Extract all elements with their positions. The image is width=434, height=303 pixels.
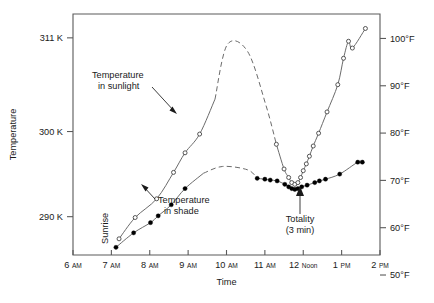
x-axis-title: Time bbox=[216, 277, 236, 287]
data-point bbox=[305, 183, 309, 187]
data-point bbox=[255, 176, 259, 180]
shade-label-line1: Temperature bbox=[158, 195, 210, 205]
data-point bbox=[275, 179, 279, 183]
data-point bbox=[307, 154, 311, 158]
data-point bbox=[311, 144, 315, 148]
x-tick-label: 8 AM bbox=[141, 260, 159, 270]
x-tick-label: 10 AM bbox=[215, 260, 238, 270]
data-point bbox=[323, 177, 327, 181]
data-point bbox=[317, 179, 321, 183]
series-shade bbox=[114, 160, 365, 249]
y-right-tick-label: 60°F bbox=[390, 223, 410, 233]
data-point bbox=[317, 131, 321, 135]
x-tick-label: 1 PM bbox=[333, 260, 351, 270]
x-tick-label: 12 Noon bbox=[289, 260, 318, 270]
data-point bbox=[132, 231, 136, 235]
sunlight-label-line1: Temperature bbox=[92, 70, 144, 80]
data-point bbox=[133, 216, 137, 220]
data-point bbox=[183, 186, 187, 190]
y-axis-title: Temperature bbox=[8, 109, 18, 161]
data-point bbox=[148, 221, 152, 225]
data-point bbox=[283, 182, 287, 186]
data-point bbox=[299, 176, 303, 180]
x-tick-label: 11 AM bbox=[254, 260, 276, 270]
temperature-eclipse-chart: 6 AM7 AM8 AM9 AM10 AM11 AM12 Noon1 PM2 P… bbox=[0, 0, 434, 303]
data-point bbox=[172, 170, 176, 174]
sunrise-label: Sunrise bbox=[100, 213, 110, 244]
x-tick-label: 7 AM bbox=[103, 260, 121, 270]
y-left-tick-label: 311 K bbox=[40, 33, 64, 43]
data-point bbox=[313, 181, 317, 185]
y-right-tick-label: 100°F bbox=[390, 34, 415, 44]
axes-group bbox=[73, 14, 380, 255]
y-axis-right bbox=[380, 38, 386, 275]
data-point bbox=[296, 181, 300, 185]
series-line-segment bbox=[203, 166, 257, 178]
data-point bbox=[338, 172, 342, 176]
x-axis: 6 AM7 AM8 AM9 AM10 AM11 AM12 Noon1 PM2 P… bbox=[64, 250, 389, 270]
series-line-segment bbox=[257, 161, 362, 189]
data-point bbox=[325, 110, 329, 114]
data-point bbox=[198, 132, 202, 136]
y-left-tick-label: 300 K bbox=[39, 127, 64, 137]
data-point bbox=[301, 169, 305, 173]
y-axis-left bbox=[67, 38, 73, 217]
y-right-tick-label: 70°F bbox=[390, 176, 410, 186]
data-point bbox=[274, 142, 278, 146]
data-point bbox=[347, 39, 351, 43]
shade-label-line2: in shade bbox=[164, 206, 199, 216]
data-point bbox=[336, 83, 340, 87]
chart-canvas: 6 AM7 AM8 AM9 AM10 AM11 AM12 Noon1 PM2 P… bbox=[0, 0, 434, 303]
series-line-segment bbox=[215, 41, 276, 145]
totality-label-line2: (3 min) bbox=[286, 225, 315, 235]
data-point bbox=[117, 237, 121, 241]
data-point bbox=[183, 151, 187, 155]
y-left-tick-label: 290 K bbox=[39, 212, 64, 222]
y-right-tick-label: 80°F bbox=[390, 128, 410, 138]
data-point bbox=[304, 162, 308, 166]
plot-frame bbox=[73, 14, 380, 255]
data-point bbox=[156, 214, 160, 218]
data-point bbox=[282, 167, 286, 171]
data-point bbox=[342, 56, 346, 60]
x-tick-label: 6 AM bbox=[64, 260, 82, 270]
data-point bbox=[263, 177, 267, 181]
data-point bbox=[350, 46, 354, 50]
data-point bbox=[114, 245, 118, 249]
y-right-tick-label: 50°F bbox=[390, 270, 410, 280]
y-right-tick-label: 90°F bbox=[390, 81, 410, 91]
x-tick-label: 2 PM bbox=[371, 260, 389, 270]
sunlight-label-line2: in sunlight bbox=[98, 81, 140, 91]
series-sunlight bbox=[117, 26, 367, 240]
totality-label-line1: Totality bbox=[286, 214, 315, 224]
data-point bbox=[268, 178, 272, 182]
data-point bbox=[363, 26, 367, 30]
series-line-segment bbox=[276, 28, 365, 184]
data-point bbox=[356, 160, 360, 164]
x-tick-label: 9 AM bbox=[179, 260, 197, 270]
data-point bbox=[287, 176, 291, 180]
data-point bbox=[360, 160, 364, 164]
series-group bbox=[114, 26, 368, 249]
